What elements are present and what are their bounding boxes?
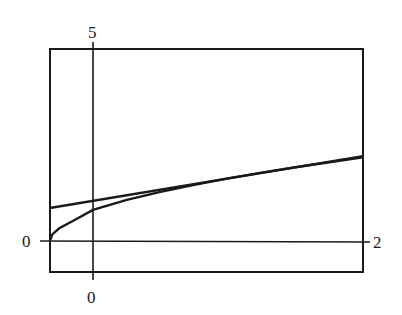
x-right-label: 2	[373, 233, 382, 252]
x-axis	[40, 241, 370, 242]
y-zero-label: 0	[22, 232, 31, 251]
plot-frame	[50, 49, 363, 272]
y-top-label: 5	[88, 23, 97, 42]
chart: 5 0 0 2	[0, 0, 402, 315]
x-zero-label: 0	[87, 288, 96, 307]
